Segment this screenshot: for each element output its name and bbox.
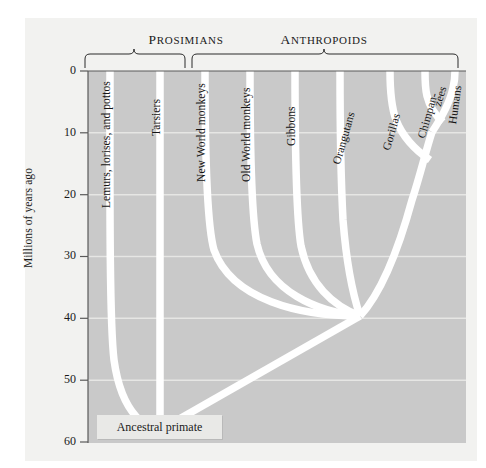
group-label-prosimians-rest: ROSIMIANS — [157, 34, 224, 46]
taxon-label-lemurs: Lemurs, lorises, and pottos — [100, 81, 112, 208]
taxon-label-new-world-monkeys: New World monkeys — [195, 83, 207, 182]
group-label-anthropoids: ANTHROPOIDS — [234, 32, 414, 48]
bracket-prosimians — [85, 49, 185, 68]
taxon-label-gibbons: Gibbons — [285, 106, 297, 146]
group-label-prosimians-first: P — [148, 32, 156, 47]
taxon-label-old-world-monkeys: Old World monkeys — [240, 88, 252, 182]
group-brackets — [85, 49, 458, 68]
y-tick-label-40: 40 — [48, 310, 76, 325]
taxon-label-tarsiers: Tarsiers — [150, 99, 162, 136]
y-tick-label-20: 20 — [48, 187, 76, 202]
ancestral-primate-label: Ancestral primate — [117, 420, 203, 435]
y-tick-label-60: 60 — [48, 434, 76, 449]
y-axis-title: Millions of years ago — [22, 128, 34, 308]
y-tick-label-0: 0 — [48, 63, 76, 78]
ancestral-primate-box: Ancestral primate — [97, 415, 222, 439]
primate-phylogeny-figure: Millions of years ago 0 10 20 30 40 50 6… — [0, 0, 486, 468]
bracket-anthropoids — [192, 49, 458, 68]
y-tick-label-30: 30 — [48, 248, 76, 263]
y-tick-label-10: 10 — [48, 125, 76, 140]
y-tick-label-50: 50 — [48, 372, 76, 387]
group-label-anthropoids-rest: NTHROPOIDS — [291, 34, 368, 46]
group-label-anthropoids-first: A — [280, 32, 290, 47]
